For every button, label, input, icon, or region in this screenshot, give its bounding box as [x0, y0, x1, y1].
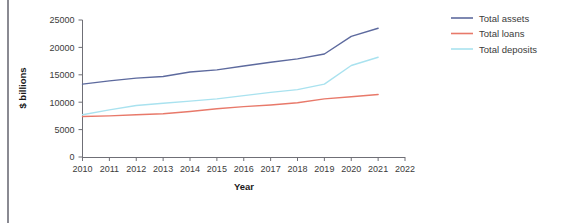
chart-figure: 0500010000150002000025000 20102011201220… [0, 0, 565, 223]
x-tick-label: 2022 [395, 164, 415, 174]
legend-label-total-loans[interactable]: Total loans [479, 28, 525, 39]
y-tick-label: 10000 [49, 98, 74, 108]
x-tick-label: 2011 [100, 164, 119, 174]
x-tick-label: 2019 [314, 164, 334, 174]
x-tick-label: 2020 [341, 164, 361, 174]
legend-label-total-deposits[interactable]: Total deposits [479, 44, 537, 55]
x-tick-label: 2021 [368, 164, 388, 174]
x-axis-title: Year [234, 181, 254, 192]
y-axis-title: $ billions [17, 67, 28, 108]
data-series-group [83, 28, 379, 116]
x-tick-label: 2014 [180, 164, 200, 174]
x-axis-ticks: 2010201120122013201420152016201720182019… [72, 157, 415, 174]
y-tick-label: 25000 [49, 15, 74, 25]
y-tick-label: 20000 [49, 43, 74, 53]
series-line-total-assets [83, 28, 379, 84]
series-line-total-deposits [83, 57, 379, 115]
x-tick-label: 2010 [72, 164, 92, 174]
x-tick-label: 2016 [234, 164, 254, 174]
x-tick-label: 2012 [126, 164, 146, 174]
x-tick-label: 2018 [287, 164, 307, 174]
legend-label-total-assets[interactable]: Total assets [479, 13, 529, 24]
y-tick-label: 5000 [54, 125, 74, 135]
x-tick-label: 2015 [207, 164, 227, 174]
y-tick-label: 0 [69, 152, 74, 162]
chart-legend: Total assetsTotal loansTotal deposits [451, 13, 537, 55]
y-axis-ticks: 0500010000150002000025000 [49, 15, 82, 162]
x-tick-label: 2013 [153, 164, 173, 174]
y-tick-label: 15000 [49, 70, 74, 80]
x-tick-label: 2017 [261, 164, 281, 174]
page-left-border [7, 0, 9, 223]
line-chart: 0500010000150002000025000 20102011201220… [0, 0, 565, 223]
